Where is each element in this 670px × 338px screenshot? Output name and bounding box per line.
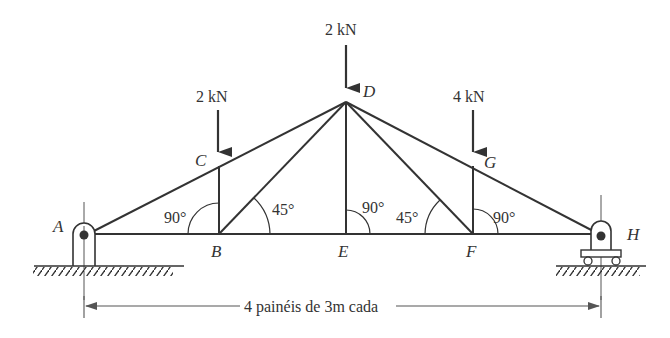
- load-label-D: 2 kN: [325, 21, 357, 38]
- angle-label-E-right: 90°: [362, 199, 384, 216]
- node-label-E: E: [337, 242, 349, 261]
- node-label-B: B: [211, 242, 222, 261]
- node-label-A: A: [52, 217, 64, 236]
- load-label-C: 2 kN: [196, 88, 228, 105]
- ground-hatch-icon: [556, 267, 640, 276]
- truss-diagram: 2 kN 2 kN 4 kN A B C D E F G H 90° 45° 9…: [0, 0, 670, 338]
- roller-support-H: [556, 195, 646, 300]
- angle-label-B-left: 90°: [164, 209, 186, 226]
- pin-icon: [80, 231, 89, 240]
- roller-wheel-icon: [584, 257, 592, 265]
- angle-arcs: [188, 198, 498, 234]
- angle-label-F-right: 90°: [493, 209, 515, 226]
- dimension-arrow-left-icon: [85, 302, 97, 310]
- node-label-F: F: [465, 242, 477, 261]
- angle-arc-B-right: [254, 198, 270, 234]
- angle-label-B-right: 45°: [272, 201, 294, 218]
- node-label-H: H: [626, 225, 641, 244]
- pin-icon: [597, 232, 606, 241]
- angle-arc-B-left: [188, 203, 219, 234]
- node-label-D: D: [362, 82, 376, 101]
- ground-hatch-icon: [33, 267, 173, 276]
- dimension-label: 4 painéis de 3m cada: [244, 298, 378, 316]
- load-label-G: 4 kN: [453, 88, 485, 105]
- angle-arc-F-left: [425, 200, 440, 234]
- node-label-C: C: [195, 151, 207, 170]
- node-label-G: G: [484, 153, 496, 172]
- dimension-arrow-right-icon: [588, 302, 600, 310]
- roller-wheel-icon: [612, 257, 620, 265]
- angle-label-F-left: 45°: [396, 209, 418, 226]
